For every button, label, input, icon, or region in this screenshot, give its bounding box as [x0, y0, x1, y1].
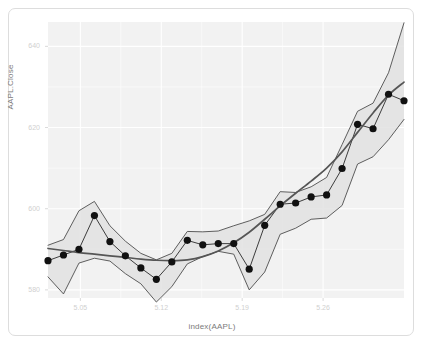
data-point: [153, 276, 160, 283]
x-tick-label: 5.19: [227, 304, 257, 311]
data-point: [385, 91, 392, 98]
data-point: [369, 125, 376, 132]
chart-figure: AAPL.Close index(AAPL) 5806006206405.055…: [0, 0, 424, 346]
data-point: [106, 238, 113, 245]
data-point: [292, 199, 299, 206]
plot-area: [0, 0, 424, 346]
x-tick-label: 5.12: [146, 304, 176, 311]
data-point: [199, 241, 206, 248]
x-tick-label: 5.05: [65, 304, 95, 311]
y-tick-label: 640: [14, 42, 40, 49]
y-tick-label: 620: [14, 124, 40, 131]
data-point: [215, 240, 222, 247]
data-point: [246, 266, 253, 273]
y-tick-label: 600: [14, 205, 40, 212]
data-point: [91, 212, 98, 219]
data-point: [122, 252, 129, 259]
x-axis-title: index(AAPL): [0, 322, 424, 331]
y-axis-title: AAPL.Close: [6, 42, 15, 132]
data-point: [137, 264, 144, 271]
data-point: [323, 191, 330, 198]
data-point: [230, 240, 237, 247]
data-point: [354, 121, 361, 128]
data-point: [168, 258, 175, 265]
data-point: [277, 201, 284, 208]
x-tick-label: 5.26: [308, 304, 338, 311]
data-point: [44, 257, 51, 264]
data-point: [60, 251, 67, 258]
data-point: [261, 222, 268, 229]
y-tick-label: 580: [14, 286, 40, 293]
data-point: [75, 246, 82, 253]
data-point: [338, 165, 345, 172]
data-point: [308, 193, 315, 200]
data-point: [184, 237, 191, 244]
data-point: [400, 97, 407, 104]
